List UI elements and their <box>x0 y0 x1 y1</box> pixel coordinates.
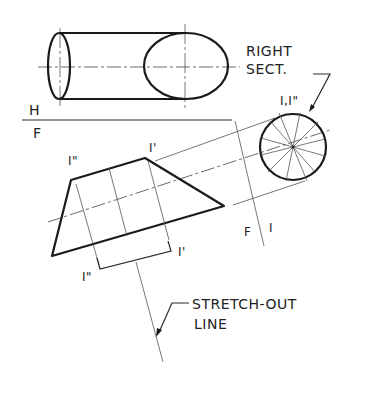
trapezoid-outline <box>52 158 224 256</box>
stretch-out-line <box>136 262 163 362</box>
development-bracket <box>97 241 171 269</box>
label-sect: SECT. <box>246 61 287 77</box>
projection-lines <box>48 118 330 246</box>
label-fold-f: F <box>244 225 251 239</box>
circle-center-point <box>292 146 295 149</box>
label-fold-1: I <box>269 221 273 235</box>
left-end-ellipse <box>48 33 70 99</box>
element-line-middle <box>109 168 127 236</box>
element-line-left <box>76 184 99 265</box>
projection-upper <box>155 118 275 161</box>
label-point-top-right: I' <box>149 141 157 155</box>
label-point-top-left: I" <box>68 154 78 168</box>
label-h: H <box>29 102 40 118</box>
top-view-cylinder <box>38 24 240 108</box>
right-end-ellipse <box>144 33 228 99</box>
label-points-1-1: I,I" <box>280 94 298 108</box>
stretch-out-arrowhead <box>156 328 162 337</box>
label-point-bottom-left: I" <box>82 270 92 284</box>
label-point-bottom-right: I' <box>178 245 186 259</box>
right-section-leader <box>312 74 330 108</box>
projection-lower <box>233 181 305 205</box>
label-right: RIGHT <box>246 43 292 59</box>
front-view-trapezoid <box>52 158 224 265</box>
stretch-out-leader <box>160 303 189 330</box>
right-section-circle-group <box>260 113 326 181</box>
projection-axis <box>48 130 330 222</box>
label-f: F <box>33 125 42 141</box>
label-line: LINE <box>194 316 227 332</box>
engineering-drawing: H F RIGHT SECT. I,I" F I I" <box>0 0 368 405</box>
label-stretch-out: STRETCH-OUT <box>192 296 297 312</box>
